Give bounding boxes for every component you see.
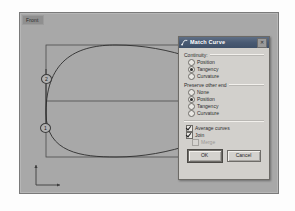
match-curve-dialog: Match Curve ✕ Continuity: Position Tange… (178, 36, 270, 180)
dialog-body: Continuity: Position Tangency Curvature … (179, 48, 269, 162)
checkbox-average-curves[interactable]: Average curves (186, 125, 264, 132)
radio-label: Position (197, 96, 215, 103)
radio-preserve-position[interactable]: Position (188, 96, 264, 103)
section-divider (184, 120, 264, 122)
radio-label: Tangency (197, 103, 218, 110)
radio-continuity-tangency[interactable]: Tangency (188, 66, 264, 73)
group-rule (210, 54, 264, 56)
radio-label: Tangency (197, 66, 218, 73)
radio-continuity-position[interactable]: Position (188, 59, 264, 66)
checkbox-label: Average curves (195, 125, 230, 132)
radio-icon[interactable] (188, 73, 195, 80)
continuity-group-label: Continuity: (184, 52, 264, 58)
checkbox-icon-checked[interactable] (186, 132, 193, 139)
radio-icon-selected[interactable] (188, 66, 195, 73)
radio-icon[interactable] (188, 103, 195, 110)
radio-icon-selected[interactable] (188, 96, 195, 103)
radio-icon[interactable] (188, 89, 195, 96)
screenshot-root: Front 2 1 (0, 0, 295, 211)
checkbox-label: Join (195, 132, 204, 139)
dialog-title-bar[interactable]: Match Curve ✕ (179, 37, 269, 48)
checkbox-icon-disabled (192, 139, 199, 146)
curve-point-marker-1[interactable]: 1 (40, 123, 51, 133)
radio-label: Curvature (197, 73, 219, 80)
radio-preserve-none[interactable]: None (188, 89, 264, 96)
radio-preserve-curvature[interactable]: Curvature (188, 110, 264, 117)
radio-preserve-tangency[interactable]: Tangency (188, 103, 264, 110)
radio-continuity-curvature[interactable]: Curvature (188, 73, 264, 80)
checkbox-label: Merge (201, 139, 215, 146)
match-curve-icon (181, 39, 188, 46)
curve-point-marker-2[interactable]: 2 (41, 74, 52, 84)
checkbox-join[interactable]: Join (186, 132, 264, 139)
cplane-axis-icon (34, 165, 60, 187)
radio-label: Position (197, 59, 215, 66)
preserve-group-label: Preserve other end (184, 82, 264, 88)
cancel-button[interactable]: Cancel (227, 150, 261, 162)
radio-icon[interactable] (188, 110, 195, 117)
continuity-group-text: Continuity: (184, 52, 208, 58)
radio-label: None (197, 89, 209, 96)
preserve-group-text: Preserve other end (184, 82, 227, 88)
ok-button[interactable]: OK (188, 150, 222, 162)
dialog-title: Match Curve (190, 39, 255, 46)
dialog-button-row: OK Cancel (184, 150, 264, 162)
checkbox-icon-checked[interactable] (186, 125, 193, 132)
checkbox-merge: Merge (192, 139, 264, 146)
radio-icon[interactable] (188, 59, 195, 66)
group-rule (229, 84, 264, 86)
close-icon[interactable]: ✕ (257, 38, 267, 48)
radio-label: Curvature (197, 110, 219, 117)
